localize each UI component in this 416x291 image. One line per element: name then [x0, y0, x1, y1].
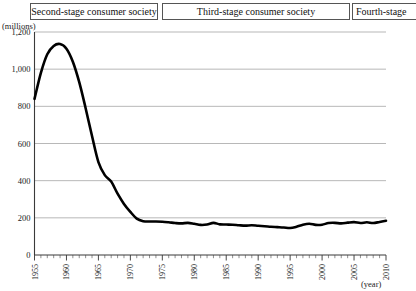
x-tick-label: 2005 — [350, 264, 359, 280]
x-tick-label: 1965 — [94, 264, 103, 280]
y-tick-label: 200 — [18, 213, 31, 223]
y-tick-label: 800 — [18, 101, 31, 111]
y-tick-label: 1,200 — [11, 27, 30, 37]
y-tick-label: 1,000 — [11, 64, 30, 74]
x-tick-label: 1990 — [254, 264, 263, 280]
data-series-group — [35, 44, 387, 228]
series-line-value — [35, 44, 387, 228]
x-tick-label: 2000 — [318, 264, 327, 280]
y-tick-labels: 02004006008001,0001,200 — [11, 27, 30, 260]
x-tick-label: 1975 — [158, 264, 167, 280]
x-tick-label: 1955 — [31, 264, 40, 280]
x-tick-label: 1995 — [286, 264, 295, 280]
x-tick-label: 1960 — [62, 264, 71, 280]
x-tick-label: 2010 — [382, 264, 391, 280]
x-tick-label: 1985 — [222, 264, 231, 280]
y-tick-label: 400 — [18, 176, 31, 186]
x-tick-label: 1970 — [126, 264, 135, 280]
x-tick-label: 1980 — [190, 264, 199, 280]
y-tick-label: 600 — [18, 139, 31, 149]
x-major-ticks — [35, 255, 387, 261]
y-tick-label: 0 — [26, 250, 30, 260]
gridlines-group — [35, 32, 387, 218]
x-tick-labels: 1955196019651970197519801985199019952000… — [31, 264, 392, 280]
